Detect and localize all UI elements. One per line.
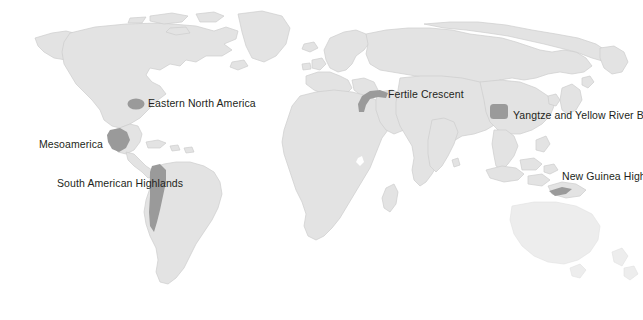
label-eastern-north-america: Eastern North America <box>148 97 256 110</box>
label-mesoamerica: Mesoamerica <box>28 138 103 151</box>
world-map-graphic: .land { fill: #e3e3e3; stroke: #cdcdcd; … <box>0 0 643 320</box>
eastern-north-america-marker <box>128 99 145 110</box>
yangtze-marker <box>490 104 508 119</box>
label-fertile-crescent: Fertile Crescent <box>388 88 444 101</box>
label-south-american-highlands: South American Highlands <box>57 177 143 190</box>
page-bleed-through-text <box>18 286 318 312</box>
label-new-guinea-highlands: New Guinea Highlands <box>562 170 632 183</box>
world-map-figure: .land { fill: #e3e3e3; stroke: #cdcdcd; … <box>0 0 643 320</box>
label-yangtze-and-yellow-river-basins: Yangtze and Yellow River Basins <box>513 109 617 122</box>
